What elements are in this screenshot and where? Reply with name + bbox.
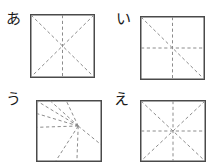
- panel-square-a: [30, 14, 95, 78]
- origami-crease-pattern-figure: あ い う え: [0, 0, 218, 168]
- ray-to-bottom-edge-right-u: [77, 126, 78, 161]
- panel-square-e: [140, 100, 206, 162]
- crease-fan-u: [37, 101, 101, 161]
- square-outline-u: [37, 101, 102, 162]
- ray-to-bottom-edge-left-u: [56, 126, 78, 161]
- ray-to-right-edge-u: [78, 126, 101, 145]
- panel-square-u: [36, 100, 102, 162]
- ray-to-left-edge-lower-u: [37, 126, 78, 127]
- panel-label-i: い: [116, 12, 131, 27]
- panel-label-e: え: [114, 92, 129, 107]
- panel-square-i: [140, 16, 205, 80]
- panel-label-a: あ: [6, 12, 21, 27]
- panel-label-u: う: [6, 92, 21, 107]
